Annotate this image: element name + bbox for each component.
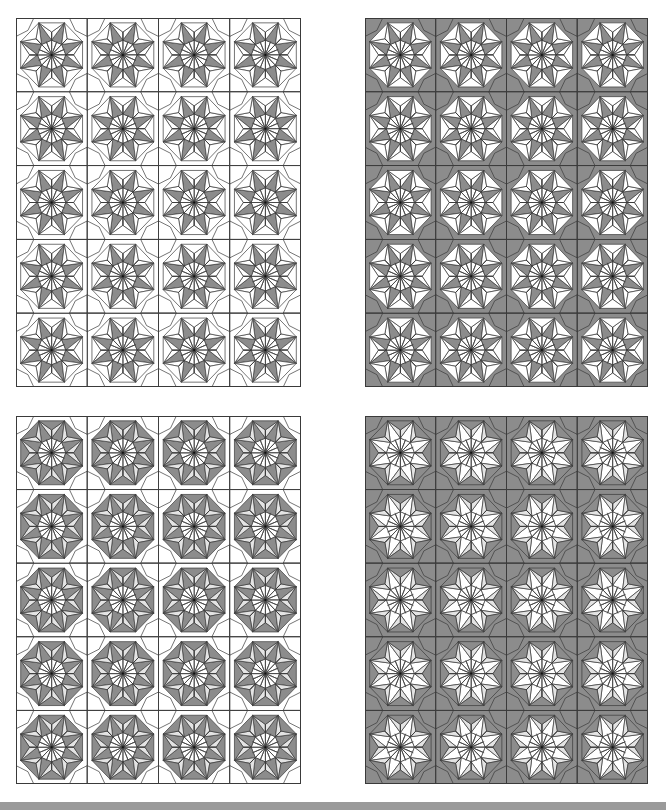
pattern-tile <box>230 416 301 490</box>
pattern-tile <box>87 416 158 490</box>
pattern-tile <box>16 18 87 92</box>
pattern-tile <box>230 313 301 387</box>
pattern-tile <box>507 166 578 240</box>
pattern-panel-bottom-right <box>365 416 648 784</box>
pattern-tile <box>436 416 507 490</box>
pattern-tile <box>365 18 436 92</box>
pattern-tile <box>16 490 87 564</box>
pattern-tile <box>230 239 301 313</box>
pattern-tile <box>577 490 648 564</box>
pattern-tile <box>16 313 87 387</box>
pattern-tile <box>436 166 507 240</box>
pattern-tile <box>365 710 436 784</box>
pattern-tile <box>87 490 158 564</box>
tiled-pattern <box>365 416 648 784</box>
pattern-tile <box>87 710 158 784</box>
pattern-tile <box>230 92 301 166</box>
pattern-tile <box>577 563 648 637</box>
tiled-pattern <box>365 18 648 387</box>
pattern-tile <box>365 166 436 240</box>
pattern-tile <box>87 239 158 313</box>
pattern-tile <box>365 416 436 490</box>
pattern-tile <box>87 18 158 92</box>
pattern-tile <box>436 490 507 564</box>
pattern-tile <box>365 563 436 637</box>
pattern-tile <box>159 239 230 313</box>
pattern-panel-top-left <box>16 18 301 387</box>
pattern-tile <box>230 166 301 240</box>
pattern-tile <box>159 313 230 387</box>
pattern-tile <box>87 637 158 711</box>
pattern-tile <box>365 239 436 313</box>
tiled-pattern <box>16 18 301 387</box>
pattern-tile <box>436 18 507 92</box>
pattern-panel-top-right <box>365 18 648 387</box>
pattern-tile <box>16 563 87 637</box>
tiled-pattern <box>16 416 301 784</box>
pattern-tile <box>87 92 158 166</box>
pattern-tile <box>577 313 648 387</box>
pattern-tile <box>577 637 648 711</box>
pattern-tile <box>577 416 648 490</box>
pattern-tile <box>577 166 648 240</box>
pattern-tile <box>230 490 301 564</box>
pattern-tile <box>16 637 87 711</box>
pattern-tile <box>159 18 230 92</box>
pattern-tile <box>16 239 87 313</box>
pattern-tile <box>87 313 158 387</box>
pattern-tile <box>436 239 507 313</box>
pattern-tile <box>16 92 87 166</box>
pattern-tile <box>87 166 158 240</box>
pattern-tile <box>16 416 87 490</box>
pattern-tile <box>436 710 507 784</box>
pattern-panel-bottom-left <box>16 416 301 784</box>
pattern-tile <box>159 563 230 637</box>
footer-bar <box>0 802 666 810</box>
pattern-tile <box>16 710 87 784</box>
pattern-tile <box>507 563 578 637</box>
pattern-tile <box>159 710 230 784</box>
pattern-tile <box>159 166 230 240</box>
pattern-tile <box>507 239 578 313</box>
pattern-tile <box>230 18 301 92</box>
pattern-tile <box>159 637 230 711</box>
pattern-tile <box>507 92 578 166</box>
pattern-tile <box>365 313 436 387</box>
pattern-tile <box>507 313 578 387</box>
pattern-tile <box>159 92 230 166</box>
pattern-tile <box>230 563 301 637</box>
pattern-tile <box>577 710 648 784</box>
pattern-tile <box>230 710 301 784</box>
pattern-tile <box>507 710 578 784</box>
pattern-tile <box>87 563 158 637</box>
pattern-tile <box>365 92 436 166</box>
pattern-tile <box>507 637 578 711</box>
pattern-tile <box>230 637 301 711</box>
pattern-tile <box>577 92 648 166</box>
pattern-tile <box>507 416 578 490</box>
pattern-tile <box>577 239 648 313</box>
pattern-tile <box>365 490 436 564</box>
pattern-tile <box>436 92 507 166</box>
pattern-tile <box>159 416 230 490</box>
pattern-tile <box>16 166 87 240</box>
pattern-tile <box>436 313 507 387</box>
pattern-tile <box>507 490 578 564</box>
pattern-tile <box>577 18 648 92</box>
pattern-tile <box>365 637 436 711</box>
pattern-tile <box>436 637 507 711</box>
pattern-tile <box>436 563 507 637</box>
pattern-tile <box>507 18 578 92</box>
pattern-tile <box>159 490 230 564</box>
